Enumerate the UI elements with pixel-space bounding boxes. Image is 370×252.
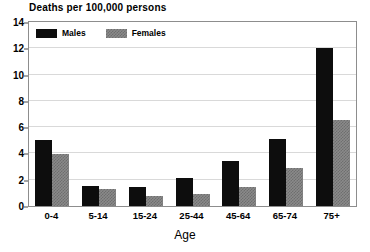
x-tick-label: 5-14 bbox=[89, 210, 108, 221]
y-tick-label: 10 bbox=[13, 71, 24, 81]
legend-item-females: Females bbox=[106, 29, 166, 38]
legend-swatch-icon bbox=[106, 29, 127, 38]
legend-item-males: Males bbox=[36, 29, 86, 38]
y-tick-label: 14 bbox=[13, 18, 24, 28]
bar-males-15-24 bbox=[129, 187, 146, 206]
bar-females-45-64 bbox=[239, 187, 256, 206]
bar-males-25-44 bbox=[176, 178, 193, 206]
bar-females-25-44 bbox=[193, 194, 210, 206]
bar-males-5-14 bbox=[82, 186, 99, 206]
bar-group bbox=[35, 22, 69, 206]
plot-area bbox=[28, 21, 357, 207]
bar-males-45-64 bbox=[222, 161, 239, 206]
x-tick-label: 0-4 bbox=[44, 210, 58, 221]
bar-group bbox=[129, 22, 163, 206]
bar-group bbox=[222, 22, 256, 206]
x-axis-title: Age bbox=[0, 228, 370, 242]
legend-label: Males bbox=[62, 29, 86, 38]
x-tick-label: 25-44 bbox=[179, 210, 203, 221]
bar-chart: Deaths per 100,000 persons 02468101214 M… bbox=[0, 0, 370, 252]
x-axis: 0-45-1415-2425-4445-6465-7475+ bbox=[28, 210, 357, 224]
bar-males-65-74 bbox=[269, 139, 286, 206]
y-tick-label: 12 bbox=[13, 44, 24, 54]
bar-females-5-14 bbox=[99, 189, 116, 206]
bar-group bbox=[269, 22, 303, 206]
bar-group bbox=[316, 22, 350, 206]
bar-females-0-4 bbox=[52, 154, 69, 206]
x-tick-label: 45-64 bbox=[226, 210, 250, 221]
chart-title: Deaths per 100,000 persons bbox=[29, 2, 167, 14]
x-tick-label: 15-24 bbox=[133, 210, 157, 221]
chart-legend: MalesFemales bbox=[36, 29, 166, 38]
x-tick-label: 65-74 bbox=[273, 210, 297, 221]
legend-swatch-icon bbox=[36, 29, 57, 38]
bar-group bbox=[82, 22, 116, 206]
y-axis: 02468101214 bbox=[0, 21, 24, 207]
bar-males-0-4 bbox=[35, 140, 52, 206]
bar-females-75+ bbox=[333, 120, 350, 206]
bar-females-15-24 bbox=[146, 196, 163, 206]
legend-label: Females bbox=[132, 29, 166, 38]
bar-group bbox=[176, 22, 210, 206]
bar-males-75+ bbox=[316, 48, 333, 206]
x-tick-label: 75+ bbox=[324, 210, 340, 221]
bar-females-65-74 bbox=[286, 168, 303, 206]
